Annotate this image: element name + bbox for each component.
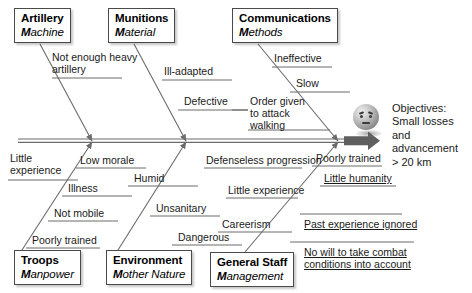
spine-line <box>18 139 348 142</box>
cause-not-enough-heavy-artillery[interactable]: Not enough heavy artillery <box>52 52 137 76</box>
cause-dangerous[interactable]: Dangerous <box>178 232 229 244</box>
objective-line-2: Small losses <box>392 115 458 128</box>
cause-low-morale[interactable]: Low morale <box>80 155 134 167</box>
category-box-environment[interactable]: Environment Mother Nature <box>106 250 192 285</box>
category-name-general-staff: General Staff <box>217 256 287 270</box>
category-sub-munitions: Material <box>115 26 168 40</box>
cause-careerism[interactable]: Careerism <box>222 219 270 231</box>
cause-humid[interactable]: Humid <box>134 173 164 185</box>
fishbone-diagram: Artillery Machine Munitions Material Com… <box>0 0 472 293</box>
cause-unsanitary[interactable]: Unsanitary <box>156 203 206 215</box>
category-sub-general-staff: Management <box>217 270 287 284</box>
objective-line-4: advancement <box>392 142 458 155</box>
category-sub-troops: Manpower <box>21 268 74 282</box>
category-name-artillery: Artillery <box>21 12 64 26</box>
cause-little-humanity[interactable]: Little humanity <box>324 173 392 185</box>
cause-defective[interactable]: Defective <box>184 96 228 108</box>
cause-ineffective[interactable]: Ineffective <box>274 53 322 65</box>
branch-munitions <box>134 44 186 141</box>
category-sub-artillery: Machine <box>21 26 64 40</box>
category-box-artillery[interactable]: Artillery Machine <box>14 8 71 43</box>
cause-illness[interactable]: Illness <box>68 183 98 195</box>
face-eye-right <box>369 115 372 118</box>
cause-little-experience-staff[interactable]: Little experience <box>228 185 304 197</box>
cause-order-given-to-attack-walking[interactable]: Order given to attack walking <box>250 96 305 131</box>
category-name-environment: Environment <box>113 254 185 268</box>
cause-no-will-to-take-combat-conditions-into-account[interactable]: No will to take combat conditions into a… <box>304 247 411 271</box>
category-name-troops: Troops <box>21 254 74 268</box>
objective-line-3: and <box>392 129 458 142</box>
sphere-shadow <box>356 130 382 137</box>
category-box-communications[interactable]: Communications Methods <box>232 8 338 43</box>
cause-not-mobile[interactable]: Not mobile <box>54 208 104 220</box>
category-name-munitions: Munitions <box>115 12 168 26</box>
objective-text: Objectives: Small losses and advancement… <box>392 102 458 169</box>
cause-slow[interactable]: Slow <box>296 78 319 90</box>
category-box-munitions[interactable]: Munitions Material <box>108 8 175 43</box>
cause-poorly-trained-troops[interactable]: Poorly trained <box>32 235 97 247</box>
objective-label: Objectives: <box>392 102 458 115</box>
face-eye-left <box>360 115 363 118</box>
category-box-troops[interactable]: Troops Manpower <box>14 250 81 285</box>
category-sub-communications: Methods <box>239 26 331 40</box>
cause-ill-adapted[interactable]: Ill-adapted <box>164 66 213 78</box>
cause-defenseless-progression[interactable]: Defenseless progression <box>206 155 322 167</box>
cause-poorly-trained-staff[interactable]: Poorly trained <box>316 153 381 165</box>
face-mouth <box>362 122 370 124</box>
cause-little-experience-troops[interactable]: Little experience <box>10 153 61 177</box>
objective-line-5: > 20 km <box>392 156 458 169</box>
category-name-communications: Communications <box>239 12 331 26</box>
cause-past-experience-ignored[interactable]: Past experience ignored <box>304 219 417 231</box>
sphere-face-icon <box>353 104 379 130</box>
category-box-general-staff[interactable]: General Staff Management <box>210 252 294 287</box>
category-sub-environment: Mother Nature <box>113 268 185 282</box>
